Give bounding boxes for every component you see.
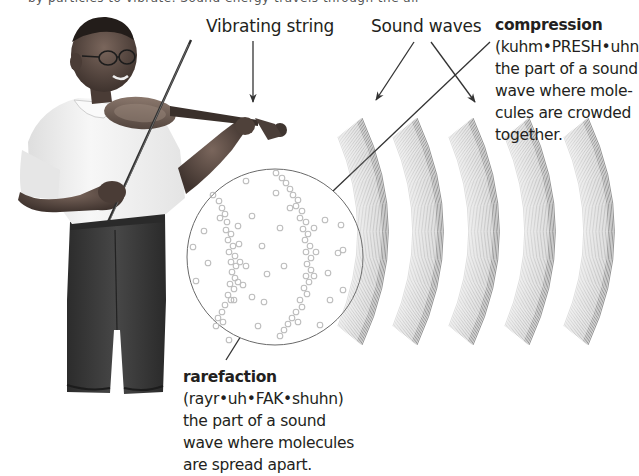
compression-line: the part of a sound xyxy=(495,58,639,80)
rarefaction-line: (rayr•uh•FAK•shuhn) xyxy=(183,388,354,410)
rarefaction-line: wave where molecules xyxy=(183,432,354,454)
sound-waves-label: Sound waves xyxy=(371,15,481,37)
sound-waves-arrow-left-icon xyxy=(376,42,414,100)
sound-wave-bands xyxy=(338,118,614,345)
compression-arrow-icon xyxy=(313,42,490,210)
compression-term: compression xyxy=(495,14,639,36)
molecule-magnifier-circle xyxy=(187,169,363,345)
compression-line: wave where mole- xyxy=(495,80,639,102)
compression-line: (kuhm•PRESH•uhn xyxy=(495,36,639,58)
rarefaction-term: rarefaction xyxy=(183,366,354,388)
compression-line: together. xyxy=(495,124,639,146)
rarefaction-definition: rarefaction (rayr•uh•FAK•shuhn) the part… xyxy=(183,366,354,476)
compression-definition: compression (kuhm•PRESH•uhn the part of … xyxy=(495,14,639,146)
rarefaction-line: are spread apart. xyxy=(183,454,354,476)
compression-line: cules are crowded xyxy=(495,102,639,124)
rarefaction-line: the part of a sound xyxy=(183,410,354,432)
sound-waves-arrow-right-icon xyxy=(431,42,475,102)
vibrating-string-label: Vibrating string xyxy=(206,15,334,37)
